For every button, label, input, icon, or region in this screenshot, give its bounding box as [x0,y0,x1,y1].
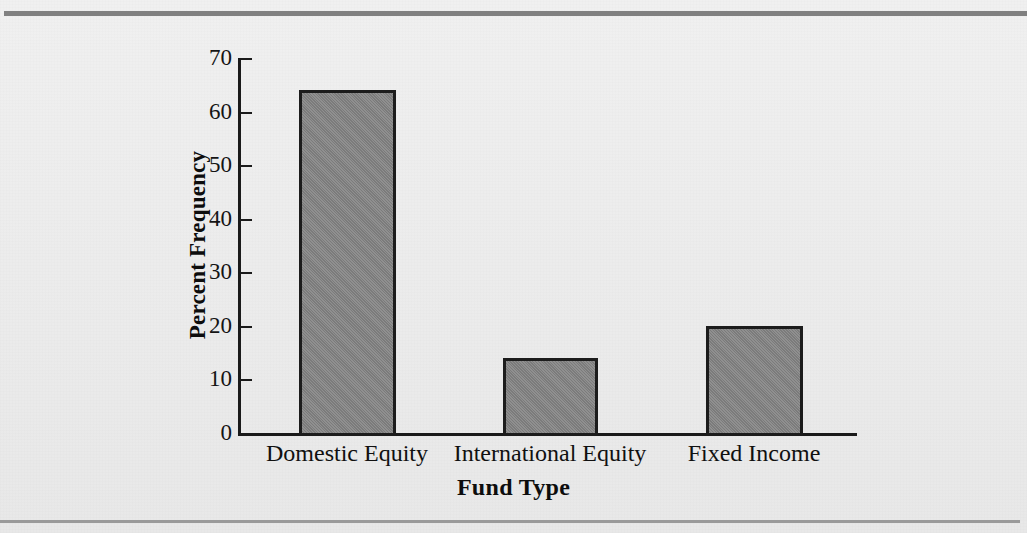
figure-page: 70 60 50 40 30 20 10 0 Domestic Equity I… [0,0,1027,533]
x-axis-title: Fund Type [0,474,1027,501]
y-tick-mark-20 [241,326,252,328]
y-tick-mark-60 [241,112,252,114]
bar-chart-figure: 70 60 50 40 30 20 10 0 Domestic Equity I… [0,0,1027,533]
y-tick-mark-30 [241,272,252,274]
y-tick-mark-0 [241,433,252,435]
y-tick-label-10: 10 [192,367,232,390]
y-tick-mark-10 [241,379,252,381]
bar-fixed-income [706,326,803,436]
y-tick-mark-70 [241,58,252,60]
y-tick-mark-50 [241,165,252,167]
y-tick-label-70: 70 [192,46,232,69]
y-axis-title: Percent Frequency [185,151,211,339]
y-tick-label-60: 60 [192,100,232,123]
bar-domestic-equity [299,90,396,436]
y-tick-mark-40 [241,219,252,221]
bar-international-equity [503,358,598,436]
x-category-label-fixed-income: Fixed Income [554,441,954,465]
